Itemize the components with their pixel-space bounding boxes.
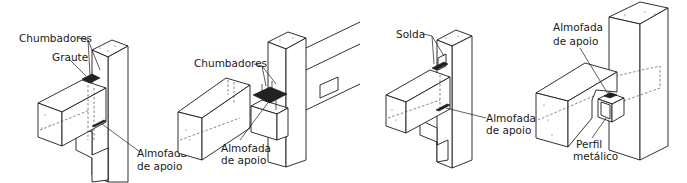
panel-3-label-almofada-1: Almofada xyxy=(486,112,536,124)
panel-1-label-chumbadores: Chumbadores xyxy=(19,32,92,44)
panel-3-label-solda: Solda xyxy=(396,28,425,40)
panel-3-welded-connection: Solda Almofada de apoio xyxy=(386,28,536,168)
panel-2-label-almofada-2: de apoio xyxy=(221,154,266,166)
panel-2-corbel xyxy=(251,100,288,140)
panel-2-dowel-on-corbel-connection: Chumbadores Almofada de apoio xyxy=(178,22,360,167)
panel-4-label-almofada-2: de apoio xyxy=(553,35,598,47)
panel-2-label-almofada-1: Almofada xyxy=(221,142,271,154)
panel-4-label-almofada-1: Almofada xyxy=(553,21,603,33)
panel-4-label-perfil-1: Perfil xyxy=(576,138,602,150)
panel-1-grouted-dowel-connection: Chumbadores Graute Almofada de apoio xyxy=(19,32,187,182)
panel-4-label-perfil-2: metálico xyxy=(573,150,618,162)
panel-4-steel-profile-connection: Almofada de apoio Perfil metálico xyxy=(536,2,668,162)
panel-3-label-almofada-2: de apoio xyxy=(486,124,531,136)
connection-diagram: Chumbadores Graute Almofada de apoio xyxy=(0,0,687,183)
panel-1-label-almofada-2: de apoio xyxy=(137,160,182,172)
panel-2-label-chumbadores: Chumbadores xyxy=(194,57,267,69)
panel-2-back-beam xyxy=(306,22,360,110)
panel-1-label-graute: Graute xyxy=(52,51,88,63)
